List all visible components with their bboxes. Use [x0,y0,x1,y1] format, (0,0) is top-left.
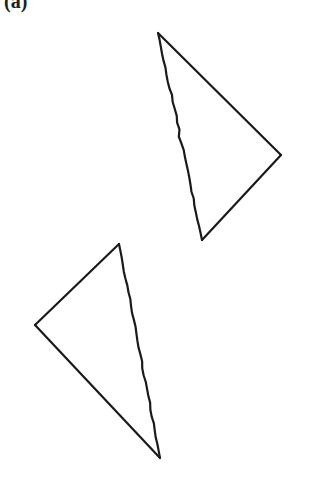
figure-canvas: (a) [0,0,328,486]
triangle-a-prime-b-prime-c-prime [158,33,281,240]
edge-B-prime-A-prime [202,155,281,240]
edge-C-prime-A-prime [158,33,202,240]
edge-B-A [35,244,119,325]
edge-C-prime-B-prime [158,33,281,155]
triangle-abc [35,244,160,458]
edge-A-C [119,244,160,458]
edge-B-C [35,325,160,458]
triangles-drawing [0,0,328,486]
